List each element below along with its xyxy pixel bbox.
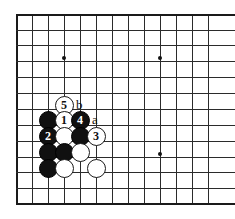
point-label-b: b: [76, 98, 83, 111]
point-label-a: a: [92, 113, 98, 126]
point-label-layer: ba: [0, 0, 235, 219]
go-board-diagram: 51423 ba: [0, 0, 235, 219]
